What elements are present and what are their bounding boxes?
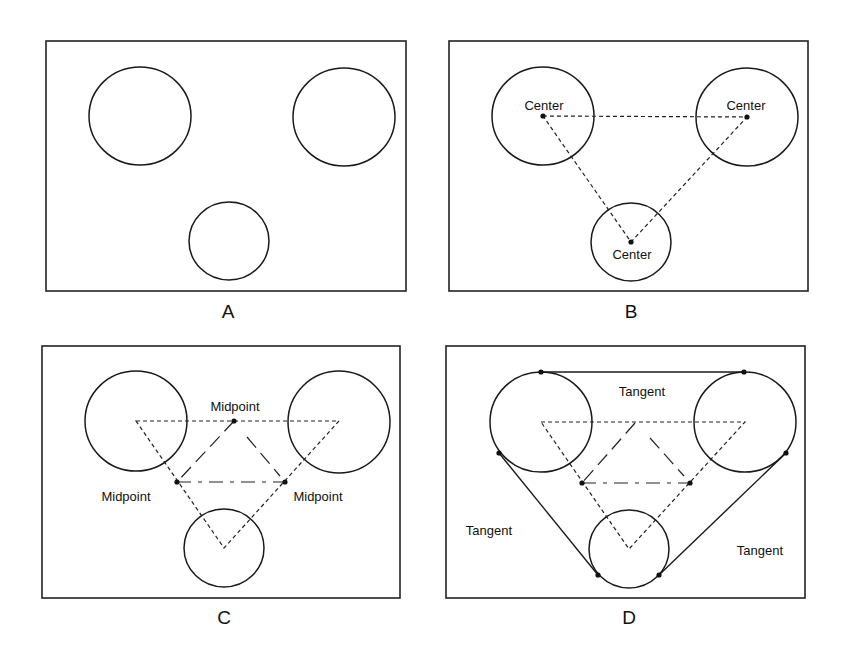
center-point-left [540, 113, 545, 118]
midpoint-line-right [247, 437, 280, 476]
midpoint-left [579, 480, 584, 485]
center-label-right: Center [726, 98, 766, 113]
midpoint-line-right [650, 438, 684, 476]
tangent-point [538, 369, 543, 374]
midpoint-label-left: Midpoint [101, 489, 151, 504]
circle-top-left [89, 67, 191, 165]
panel-a-label: A [222, 301, 235, 322]
midpoint-top [231, 418, 236, 423]
tangent-point [783, 450, 788, 455]
center-triangle [543, 116, 747, 242]
panel-d-label: D [622, 607, 636, 628]
panel-b: Center Center Center B [449, 41, 808, 322]
panel-a: A [46, 41, 406, 322]
circle-bottom [189, 202, 269, 280]
circle-top-right [293, 68, 395, 166]
circle-top-right [288, 371, 390, 473]
panel-c-label: C [217, 607, 231, 628]
center-triangle [136, 421, 339, 548]
center-label-bottom: Center [612, 247, 652, 262]
diagram-canvas: A Center Center Center B Midpoint Midpoi… [0, 0, 851, 653]
midpoint-left [174, 479, 179, 484]
tangent-label-top: Tangent [619, 384, 666, 399]
tangent-point [595, 572, 600, 577]
midpoint-label-top: Midpoint [210, 399, 260, 414]
center-label-left: Center [524, 98, 564, 113]
panel-c: Midpoint Midpoint Midpoint C [42, 346, 400, 628]
tangent-point [741, 369, 746, 374]
panel-b-label: B [625, 301, 638, 322]
center-triangle [541, 422, 745, 549]
midpoint-label-right: Midpoint [293, 489, 343, 504]
midpoint-line-left [582, 423, 635, 483]
tangent-point [656, 572, 661, 577]
panel-d: Tangent Tangent Tangent D [446, 346, 805, 628]
tangent-label-left: Tangent [466, 523, 513, 538]
midpoint-right [282, 479, 287, 484]
tangent-point [496, 450, 501, 455]
tangent-label-right: Tangent [737, 543, 784, 558]
center-point-right [744, 114, 749, 119]
midpoint-right [687, 480, 692, 485]
center-point-bottom [628, 239, 633, 244]
